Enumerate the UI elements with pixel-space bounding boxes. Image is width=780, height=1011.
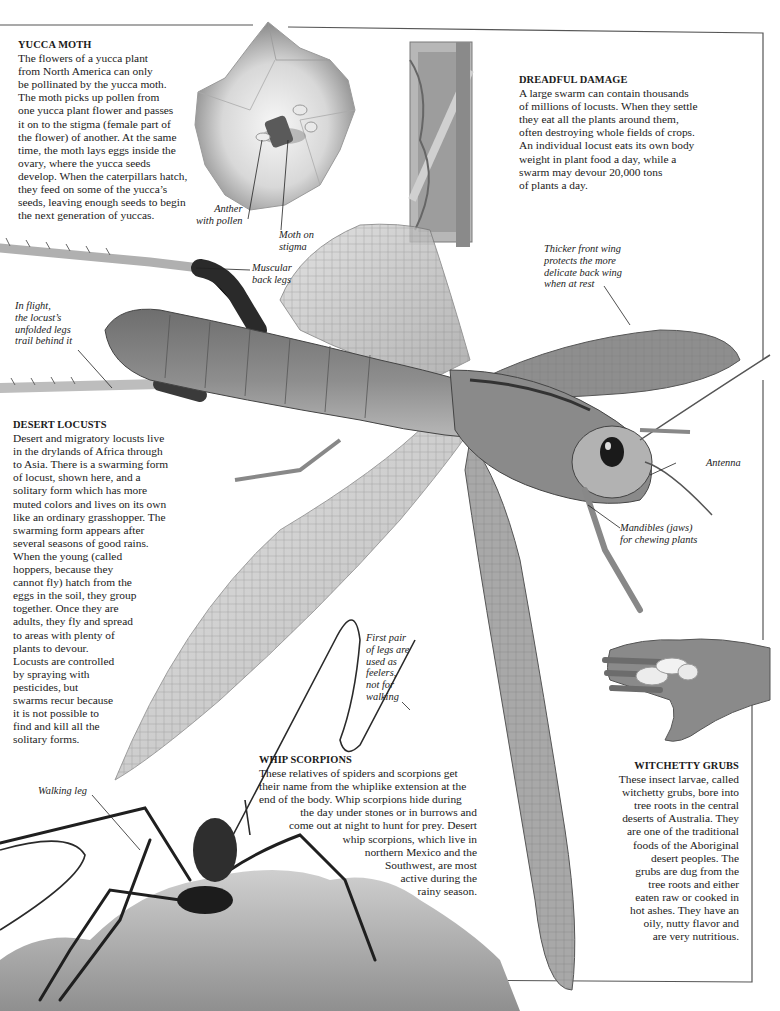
body-line: are very nutritious. xyxy=(600,930,739,943)
body-line: pesticides, but xyxy=(13,681,168,694)
body-line: the day under stones or in burrows and xyxy=(259,806,477,819)
label-line: unfolded legs xyxy=(15,324,72,336)
body-line: by spraying with xyxy=(13,668,168,681)
section-title: WHIP SCORPIONS xyxy=(259,753,477,766)
body-line: they feed on some of the yucca’s xyxy=(18,183,187,196)
body-line: the flower) of another. At the same xyxy=(18,131,187,144)
body-line: one yucca plant flower and passes xyxy=(18,104,187,117)
label-line: with pollen xyxy=(196,215,242,227)
label-line: when at rest xyxy=(544,278,622,290)
section-title: DESERT LOCUSTS xyxy=(13,418,168,431)
body-line: they eat all the plants around them, xyxy=(519,113,698,126)
body-line: eaten raw or cooked in xyxy=(600,891,739,904)
body-line: from North America can only xyxy=(18,65,187,78)
whip-scorpions-section: WHIP SCORPIONS These relatives of spider… xyxy=(259,753,477,898)
body-line: The flowers of a yucca plant xyxy=(18,52,187,65)
body-line: swarming form appears after xyxy=(13,524,168,537)
section-title: WITCHETTY GRUBS xyxy=(600,759,739,772)
body-line: Locusts are controlled xyxy=(13,655,168,668)
body-line: time, the moth lays eggs inside the xyxy=(18,144,187,157)
body-line: ovary, where the yucca seeds xyxy=(18,157,187,170)
label-line: protects the more xyxy=(544,255,622,267)
body-line: in the drylands of Africa through xyxy=(13,445,168,458)
body-line: grubs are dug from the xyxy=(600,865,739,878)
body-line: Southwest, are most xyxy=(259,859,477,872)
body-line: swarm may devour 20,000 tons xyxy=(519,166,698,179)
label-line: Muscular xyxy=(252,262,292,274)
body-line: seeds, leaving enough seeds to begin xyxy=(18,196,187,209)
body-line: find and kill all the xyxy=(13,720,168,733)
label-line: Anther xyxy=(196,203,242,215)
witchetty-grubs-photo xyxy=(605,639,770,741)
body-line: foods of the Aboriginal xyxy=(600,839,739,852)
label-line: delicate back wing xyxy=(544,267,622,279)
body-line: hoppers, because they xyxy=(13,563,168,576)
label-line: Antenna xyxy=(706,457,741,469)
body-line: it is not possible to xyxy=(13,707,168,720)
label-in-flight: In flight, the locust’s unfolded legs tr… xyxy=(15,300,72,347)
body-line: plants to devour. xyxy=(13,642,168,655)
label-line: walking xyxy=(366,691,409,703)
body-line: eggs in the soil, they group xyxy=(13,589,168,602)
body-line: to areas with plenty of xyxy=(13,629,168,642)
label-walking-leg: Walking leg xyxy=(38,785,87,797)
yucca-flower-photo xyxy=(195,22,355,210)
body-line: adults, they fly and spread xyxy=(13,615,168,628)
body-line: muted colors and lives on its own xyxy=(13,498,168,511)
body-line: tree roots in the central xyxy=(600,799,739,812)
body-line: it on to the stigma (female part of xyxy=(18,118,187,131)
dreadful-damage-section: DREADFUL DAMAGE A large swarm can contai… xyxy=(519,73,698,192)
label-line: Walking leg xyxy=(38,785,87,797)
body-line: be pollinated by the yucca moth. xyxy=(18,78,187,91)
body-line: are one of the traditional xyxy=(600,825,739,838)
label-muscular-back-legs: Muscular back legs xyxy=(252,262,292,286)
body-line: The moth picks up pollen from xyxy=(18,91,187,104)
label-line: stigma xyxy=(279,241,314,253)
body-line: northern Mexico and the xyxy=(259,846,477,859)
body-line: to Asia. There is a swarming form xyxy=(13,458,168,471)
label-mandibles: Mandibles (jaws) for chewing plants xyxy=(620,522,697,546)
body-line: often destroying whole fields of crops. xyxy=(519,126,698,139)
section-title: DREADFUL DAMAGE xyxy=(519,73,698,86)
body-line: active during the xyxy=(259,872,477,885)
label-line: Mandibles (jaws) xyxy=(620,522,697,534)
label-anther: Anther with pollen xyxy=(196,203,242,227)
yucca-moth-section: YUCCA MOTH The flowers of a yucca plant … xyxy=(18,38,187,222)
label-first-pair-legs: First pair of legs are used as feelers, … xyxy=(366,632,409,703)
witchetty-grubs-section: WITCHETTY GRUBS These insect larvae, cal… xyxy=(600,759,739,943)
damaged-crate-photo xyxy=(410,42,472,247)
label-line: of legs are xyxy=(366,644,409,656)
body-line: oily, nutty flavor and xyxy=(600,917,739,930)
body-line: of millions of locusts. When they settle xyxy=(519,100,698,113)
body-line: like an ordinary grasshopper. The xyxy=(13,511,168,524)
body-line: whip scorpions, which live in xyxy=(259,833,477,846)
body-line: end of the body. Whip scorpions hide dur… xyxy=(259,793,477,806)
section-title: YUCCA MOTH xyxy=(18,38,187,51)
body-line: An individual locust eats its own body xyxy=(519,139,698,152)
body-line: the next generation of yuccas. xyxy=(18,209,187,222)
body-line: Desert and migratory locusts live xyxy=(13,432,168,445)
body-line: These insect larvae, called xyxy=(600,773,739,786)
label-line: the locust’s xyxy=(15,312,72,324)
desert-locusts-section: DESERT LOCUSTS Desert and migratory locu… xyxy=(13,418,168,746)
body-line: tree roots and either xyxy=(600,878,739,891)
body-line: desert peoples. The xyxy=(600,852,739,865)
label-line: feelers, xyxy=(366,667,409,679)
body-line: of plants a day. xyxy=(519,179,698,192)
label-line: not for xyxy=(366,679,409,691)
body-line: hot ashes. They have an xyxy=(600,904,739,917)
label-antenna: Antenna xyxy=(706,457,741,469)
body-line: swarms recur because xyxy=(13,694,168,707)
body-line: witchetty grubs, bore into xyxy=(600,786,739,799)
label-line: for chewing plants xyxy=(620,534,697,546)
body-line: These relatives of spiders and scorpions… xyxy=(259,767,477,780)
label-thicker-front-wing: Thicker front wing protects the more del… xyxy=(544,243,622,290)
label-line: trail behind it xyxy=(15,335,72,347)
label-line: used as xyxy=(366,656,409,668)
label-line: Thicker front wing xyxy=(544,243,622,255)
body-line: several seasons of good rains. xyxy=(13,537,168,550)
label-line: back legs xyxy=(252,274,292,286)
body-line: deserts of Australia. They xyxy=(600,812,739,825)
body-line: solitary form which has more xyxy=(13,484,168,497)
body-line: rainy season. xyxy=(259,885,477,898)
